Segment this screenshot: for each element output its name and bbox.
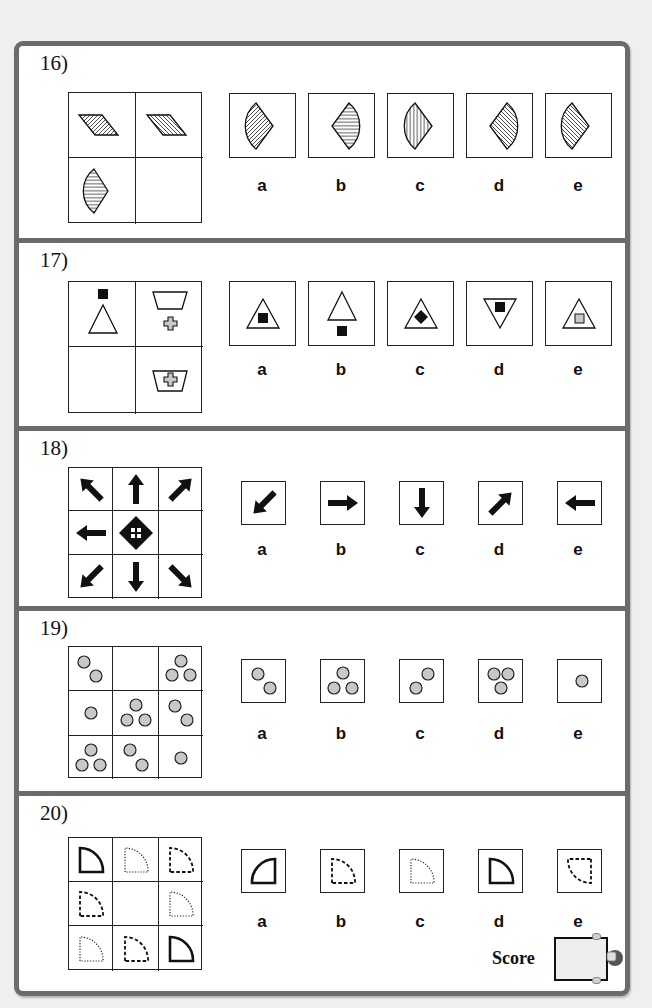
triangle-diamond-inside-icon xyxy=(391,284,451,344)
arrow-down-icon xyxy=(116,557,156,597)
grid-cell xyxy=(69,691,113,736)
grid-cell xyxy=(69,926,113,971)
option-a-label[interactable]: a xyxy=(247,540,277,560)
missing-cell xyxy=(69,347,136,414)
option-d-label[interactable]: d xyxy=(484,176,514,196)
option-c-label[interactable]: c xyxy=(405,724,435,744)
missing-cell xyxy=(136,158,203,224)
option-e-label[interactable]: e xyxy=(563,724,593,744)
option-c-label[interactable]: c xyxy=(405,176,435,196)
option-c-figure[interactable] xyxy=(399,849,444,893)
grid-cell xyxy=(69,282,136,347)
question-17: 17) xyxy=(19,243,625,431)
three-circles-icon xyxy=(481,661,521,701)
score-label: Score xyxy=(492,948,535,969)
option-d-figure[interactable] xyxy=(466,93,533,158)
option-e-figure[interactable] xyxy=(557,659,602,703)
option-d-figure[interactable] xyxy=(466,281,533,346)
option-d-figure[interactable] xyxy=(478,481,523,525)
option-e-figure[interactable] xyxy=(557,849,602,893)
option-c-figure[interactable] xyxy=(399,659,444,703)
sector-icon xyxy=(470,96,530,156)
option-e-figure[interactable] xyxy=(557,481,602,525)
grid-cell xyxy=(69,838,113,882)
grid-cell xyxy=(69,882,113,926)
grid-cell xyxy=(159,647,203,691)
grid-cell xyxy=(113,555,159,599)
quarter-circle-solid-icon xyxy=(481,851,521,891)
option-a-figure[interactable] xyxy=(241,659,286,703)
option-c-figure[interactable] xyxy=(387,93,454,158)
two-circles-icon xyxy=(244,661,284,701)
grid-cell xyxy=(113,736,159,779)
option-a-label[interactable]: a xyxy=(247,724,277,744)
option-b-label[interactable]: b xyxy=(326,912,356,932)
matrix-grid xyxy=(68,646,202,778)
option-e-label[interactable]: e xyxy=(563,540,593,560)
option-c-label[interactable]: c xyxy=(405,360,435,380)
question-19: 19) a b c d e xyxy=(19,611,625,796)
arrow-up-icon xyxy=(116,469,156,509)
option-d-label[interactable]: d xyxy=(484,360,514,380)
trapezoid-with-cross-below-icon xyxy=(140,284,200,344)
quarter-circle-dotted-icon xyxy=(71,929,111,969)
option-b-label[interactable]: b xyxy=(326,724,356,744)
quarter-circle-mirrored-solid-icon xyxy=(244,851,284,891)
arrow-right-icon xyxy=(323,483,363,523)
question-number: 19) xyxy=(40,616,68,641)
option-d-figure[interactable] xyxy=(478,849,523,893)
option-d-label[interactable]: d xyxy=(484,912,514,932)
grid-cell xyxy=(113,838,159,882)
grid-cell xyxy=(113,926,159,971)
score-input-box[interactable] xyxy=(554,937,608,981)
option-b-figure[interactable] xyxy=(320,849,365,893)
option-c-figure[interactable] xyxy=(387,281,454,346)
option-b-label[interactable]: b xyxy=(326,176,356,196)
option-b-figure[interactable] xyxy=(308,93,375,158)
quarter-circle-rotated-dashed-icon xyxy=(560,851,600,891)
option-c-label[interactable]: c xyxy=(405,912,435,932)
option-d-figure[interactable] xyxy=(478,659,523,703)
triangle-square-below-icon xyxy=(312,284,372,344)
quarter-circle-dashed-icon xyxy=(116,929,156,969)
option-d-label[interactable]: d xyxy=(484,724,514,744)
grid-cell xyxy=(136,282,203,347)
option-b-figure[interactable] xyxy=(320,659,365,703)
grid-cell xyxy=(159,926,203,971)
option-a-label[interactable]: a xyxy=(247,912,277,932)
trapezoid-with-cross-inside-icon xyxy=(140,351,200,411)
grid-cell xyxy=(69,468,113,511)
clip-pin-top-icon xyxy=(592,933,601,940)
option-c-figure[interactable] xyxy=(399,481,444,525)
option-a-figure[interactable] xyxy=(241,849,286,893)
grid-cell xyxy=(159,468,203,511)
worksheet-frame: 16) a b c d xyxy=(14,41,630,996)
sector-icon xyxy=(391,96,451,156)
option-a-label[interactable]: a xyxy=(247,360,277,380)
option-e-figure[interactable] xyxy=(545,93,612,158)
option-a-figure[interactable] xyxy=(241,481,286,525)
question-number: 17) xyxy=(40,248,68,273)
option-a-figure[interactable] xyxy=(229,93,296,158)
option-a-figure[interactable] xyxy=(229,281,296,346)
grid-cell xyxy=(69,647,113,691)
option-e-figure[interactable] xyxy=(545,281,612,346)
option-b-figure[interactable] xyxy=(320,481,365,525)
option-c-label[interactable]: c xyxy=(405,540,435,560)
option-e-label[interactable]: e xyxy=(563,360,593,380)
parallelogram-icon xyxy=(140,105,200,145)
option-b-label[interactable]: b xyxy=(326,540,356,560)
option-b-label[interactable]: b xyxy=(326,360,356,380)
arrow-down-left-icon xyxy=(244,483,284,523)
option-e-label[interactable]: e xyxy=(563,176,593,196)
question-number: 20) xyxy=(40,801,68,826)
question-20: 20) a b c d e Score xyxy=(19,796,625,991)
option-e-label[interactable]: e xyxy=(563,912,593,932)
matrix-grid xyxy=(68,467,202,598)
option-a-label[interactable]: a xyxy=(247,176,277,196)
option-b-figure[interactable] xyxy=(308,281,375,346)
option-d-label[interactable]: d xyxy=(484,540,514,560)
grid-cell xyxy=(113,691,159,736)
quarter-circle-dashed-icon xyxy=(161,840,201,880)
grid-cell xyxy=(69,158,136,224)
